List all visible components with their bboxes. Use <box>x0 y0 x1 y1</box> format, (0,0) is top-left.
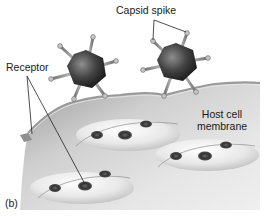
capsid-spike-label: Capsid spike <box>116 5 176 17</box>
receptor <box>140 121 152 128</box>
receptor <box>78 182 92 191</box>
host-cell-membrane-label: Host cell membrane <box>196 109 248 132</box>
receptor <box>198 152 212 161</box>
receptor <box>49 184 61 192</box>
receptor <box>91 131 103 139</box>
receptor-label: Receptor <box>6 62 49 74</box>
virus-left <box>49 35 119 102</box>
receptor <box>170 152 182 160</box>
receptor-bump-2 <box>155 139 259 171</box>
host-cell-label-line1: Host cell <box>196 109 248 121</box>
receptor <box>220 142 232 149</box>
receptor <box>99 171 111 178</box>
host-cell-label-line2: membrane <box>196 121 248 133</box>
receptor <box>118 131 132 140</box>
virus-attachment-diagram: Capsid spike Receptor Host cell membrane… <box>0 0 265 220</box>
capsid-spike-leader <box>153 20 186 40</box>
panel-label: (b) <box>5 198 18 210</box>
